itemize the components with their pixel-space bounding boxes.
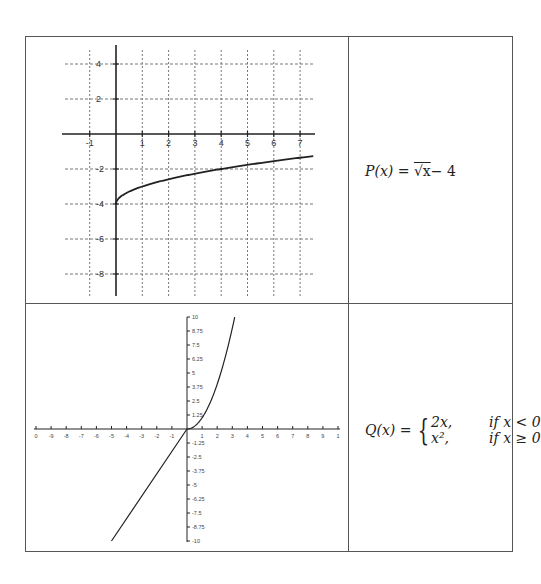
x-tick-label: 0 bbox=[34, 433, 37, 439]
x-tick-label: -8 bbox=[64, 433, 69, 439]
x-tick-label: -4 bbox=[124, 433, 129, 439]
y-tick-label: -2.5 bbox=[192, 454, 201, 460]
sqrt-x: √x bbox=[414, 163, 431, 179]
x-tick-label: 1 bbox=[336, 433, 339, 439]
y-tick-label: 3.75 bbox=[192, 384, 203, 390]
x-tick-label: 2 bbox=[216, 433, 219, 439]
x-tick-label: 9 bbox=[321, 433, 324, 439]
case1-condition: if x < 0 bbox=[489, 414, 541, 430]
y-tick-label: 1.25 bbox=[192, 412, 203, 418]
x-tick-label: 3 bbox=[231, 433, 234, 439]
y-tick-label: 10 bbox=[192, 314, 198, 320]
y-tick-label: 7.5 bbox=[192, 342, 200, 348]
case-row-2: x²,if x ≥ 0 bbox=[431, 430, 541, 446]
y-tick-label: -8.75 bbox=[192, 524, 205, 530]
case1-expression: 2x, bbox=[431, 414, 489, 430]
case2-condition: if x ≥ 0 bbox=[489, 430, 541, 446]
x-tick-label: -5 bbox=[109, 433, 114, 439]
x-tick-label: 5 bbox=[261, 433, 264, 439]
formula-p-tail: − 4 bbox=[431, 163, 456, 179]
y-tick-label: -6.25 bbox=[192, 496, 205, 502]
y-tick-label: -7.5 bbox=[192, 510, 201, 516]
y-tick-label: -1.25 bbox=[192, 440, 205, 446]
x-tick-label: -7 bbox=[79, 433, 84, 439]
x-tick-label: 8 bbox=[306, 433, 309, 439]
x-tick-label: -3 bbox=[139, 433, 144, 439]
y-tick-label: -3.75 bbox=[192, 468, 205, 474]
left-brace: { bbox=[418, 415, 429, 445]
x-tick-label: 6 bbox=[276, 433, 279, 439]
y-tick-label: -10 bbox=[192, 538, 200, 544]
formula-p-lhs: P(x) = bbox=[365, 163, 414, 179]
case2-expression: x², bbox=[431, 430, 489, 446]
y-tick-label: 5 bbox=[192, 370, 195, 376]
x-tick-label: -2 bbox=[154, 433, 159, 439]
formula-q-cases: 2x,if x < 0 x²,if x ≥ 0 bbox=[431, 414, 541, 446]
formula-p: P(x) = √x− 4 bbox=[365, 163, 456, 179]
y-tick-label: -5 bbox=[192, 482, 197, 488]
x-tick-label: 7 bbox=[291, 433, 294, 439]
y-tick-label: 8.75 bbox=[192, 328, 203, 334]
x-tick-label: 1 bbox=[201, 433, 204, 439]
formula-q: Q(x) = { 2x,if x < 0 x²,if x ≥ 0 bbox=[365, 414, 541, 446]
x-tick-label: -9 bbox=[49, 433, 54, 439]
formula-q-lhs: Q(x) = bbox=[365, 422, 416, 438]
case-row-1: 2x,if x < 0 bbox=[431, 414, 541, 430]
x-tick-label: 4 bbox=[246, 433, 249, 439]
x-tick-label: -1 bbox=[169, 433, 174, 439]
y-tick-label: 6.25 bbox=[192, 356, 203, 362]
y-tick-label: 2.5 bbox=[192, 398, 200, 404]
x-tick-label: -6 bbox=[94, 433, 99, 439]
